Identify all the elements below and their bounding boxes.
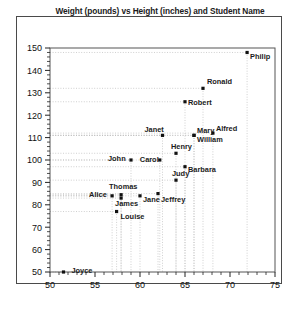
- data-point-label: Jeffrey: [161, 195, 186, 204]
- y-axis-tick-label: 90: [32, 178, 42, 188]
- data-point-marker[interactable]: [120, 193, 123, 196]
- data-point-label: Ronald: [207, 77, 233, 86]
- data-point-marker[interactable]: [192, 134, 195, 137]
- data-point-label: Carol: [140, 155, 159, 164]
- data-point-label: Robert: [188, 98, 212, 107]
- data-point-label: Louise: [121, 212, 145, 221]
- x-axis-tick-label: 50: [45, 280, 55, 290]
- data-point-marker[interactable]: [62, 270, 65, 273]
- y-axis-tick-label: 130: [27, 88, 42, 98]
- x-axis-tick-label: 60: [135, 280, 145, 290]
- data-point-marker[interactable]: [129, 158, 132, 161]
- data-point-marker[interactable]: [183, 100, 186, 103]
- plot-area-border: [50, 48, 275, 272]
- x-axis-tick-label: 65: [180, 280, 190, 290]
- y-axis-tick-label: 50: [32, 267, 42, 277]
- data-point-label: Henry: [171, 142, 193, 151]
- data-point-label: Janet: [145, 125, 165, 134]
- y-axis-tick-label: 150: [27, 43, 42, 53]
- data-point-marker[interactable]: [246, 51, 249, 54]
- data-point-marker[interactable]: [111, 194, 114, 197]
- data-point-label: Philip: [250, 52, 271, 61]
- data-point-marker[interactable]: [201, 87, 204, 90]
- y-axis-tick-label: 60: [32, 245, 42, 255]
- y-axis-tick-label: 110: [28, 133, 42, 143]
- y-axis-tick-label: 80: [32, 200, 42, 210]
- data-point-marker[interactable]: [174, 179, 177, 182]
- x-axis-tick-label: 55: [90, 280, 100, 290]
- data-point-label: Jane: [143, 195, 160, 204]
- data-point-label: Joyce: [72, 266, 93, 275]
- data-point-marker[interactable]: [138, 194, 141, 197]
- data-point-label: William: [197, 135, 223, 144]
- scatter-plot: 5060708090100110120130140150505560657075…: [0, 0, 299, 316]
- data-point-label: John: [108, 154, 126, 163]
- data-point-label: James: [115, 199, 138, 208]
- data-point-marker[interactable]: [211, 132, 214, 135]
- x-axis-tick-label: 70: [225, 280, 235, 290]
- y-axis-tick-label: 120: [27, 111, 42, 121]
- data-point-marker[interactable]: [115, 210, 118, 213]
- data-point-label: Alice: [89, 190, 107, 199]
- data-point-marker[interactable]: [156, 192, 159, 195]
- y-axis-tick-label: 70: [32, 223, 42, 233]
- data-point-marker[interactable]: [183, 165, 186, 168]
- data-point-label: Barbara: [188, 165, 217, 174]
- data-point-marker[interactable]: [174, 152, 177, 155]
- y-axis-tick-label: 100: [27, 155, 42, 165]
- data-point-label: Alfred: [216, 124, 238, 133]
- data-point-label: Thomas: [109, 182, 137, 191]
- y-axis-tick-label: 140: [27, 66, 42, 76]
- x-axis-tick-label: 75: [270, 280, 280, 290]
